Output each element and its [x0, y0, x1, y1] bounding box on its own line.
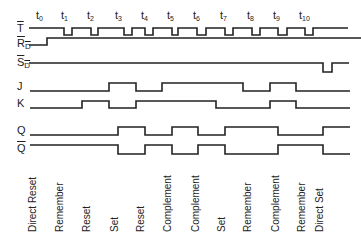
- waveform-s-bar-d: [29, 63, 349, 72]
- operation-label: Remember: [296, 183, 307, 232]
- operation-label: Direct Set: [314, 188, 325, 232]
- operation-label: Remember: [242, 183, 253, 232]
- operation-label: Set: [216, 217, 227, 232]
- signal-label: Q: [17, 143, 26, 154]
- operation-label: Complement: [270, 175, 281, 232]
- clock-label: t5: [167, 9, 174, 22]
- waveform-t-bar: [29, 28, 348, 35]
- operation-label: Set: [109, 217, 120, 232]
- waveform-j: [30, 83, 350, 91]
- waveform-k: [30, 101, 350, 108]
- operation-label: Complement: [190, 175, 201, 232]
- clock-label: t7: [220, 9, 227, 22]
- operation-label: Reset: [81, 206, 92, 232]
- signal-label: J: [17, 81, 23, 92]
- waveform-r-bar-d: [29, 38, 361, 45]
- clock-label: t6: [193, 9, 200, 22]
- operation-label: Direct Reset: [27, 177, 38, 232]
- clock-label: t1: [61, 9, 68, 22]
- clock-label: t9: [273, 9, 280, 22]
- clock-label: t4: [141, 9, 148, 22]
- clock-label: t0: [36, 9, 43, 22]
- operation-label: Remember: [54, 183, 65, 232]
- operation-label: Reset: [135, 206, 146, 232]
- clock-label: t2: [87, 9, 94, 22]
- operation-label: Complement: [162, 175, 173, 232]
- signal-label: Q: [17, 125, 26, 136]
- waveform-q: [30, 127, 350, 135]
- clock-label: t3: [115, 9, 122, 22]
- signal-label: RD: [17, 38, 31, 52]
- clock-label: t8: [247, 9, 254, 22]
- signal-label: T: [17, 23, 24, 34]
- signal-label: K: [17, 98, 24, 109]
- clock-label: t10: [299, 9, 310, 22]
- waveform-q-bar: [30, 145, 350, 154]
- signal-label: SD: [17, 57, 30, 71]
